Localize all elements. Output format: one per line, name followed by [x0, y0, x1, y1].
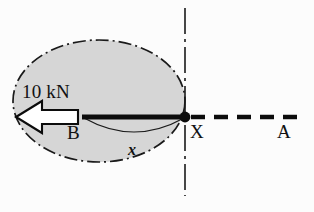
diagram-canvas [0, 0, 314, 212]
mechanics-free-body-diagram: 10 kN B X A x [0, 0, 314, 212]
node-dot-x [180, 112, 191, 123]
dimension-label-x: x [128, 142, 136, 158]
load-label: 10 kN [22, 82, 70, 101]
point-label-a: A [277, 122, 291, 141]
point-label-b: B [67, 123, 80, 142]
point-label-x: X [190, 122, 204, 141]
